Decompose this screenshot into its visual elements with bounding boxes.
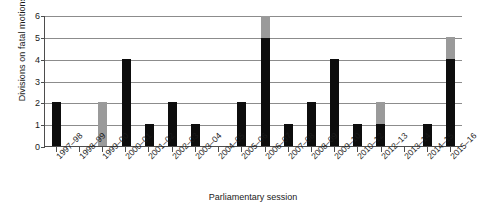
bar-segment-grey xyxy=(261,16,270,38)
bar-stack xyxy=(400,16,409,146)
bar-group xyxy=(184,16,207,146)
bar-stack xyxy=(376,16,385,146)
y-tick-label: 1 xyxy=(35,120,40,130)
y-tick-label: 5 xyxy=(35,33,40,43)
x-label-cell: 1997–98 xyxy=(44,152,67,192)
x-axis-tick-labels: 1997–981998–991999–002000–012001–022002–… xyxy=(44,152,462,192)
bar-segment-grey xyxy=(376,102,385,124)
bar-stack xyxy=(307,16,316,146)
x-label-cell: 2003–04 xyxy=(183,152,206,192)
x-label-cell: 2005–06 xyxy=(230,152,253,192)
bar-group xyxy=(254,16,277,146)
bar-stack xyxy=(214,16,223,146)
bar-stack xyxy=(145,16,154,146)
x-label-cell: 2004–05 xyxy=(207,152,230,192)
bar-stack xyxy=(330,16,339,146)
bar-stack xyxy=(191,16,200,146)
bar-group xyxy=(346,16,369,146)
bar-stack xyxy=(284,16,293,146)
x-axis-title: Parliamentary session xyxy=(44,192,462,202)
x-label-cell: 2012–13 xyxy=(369,152,392,192)
bar-segment-grey xyxy=(446,37,455,59)
bar-group xyxy=(138,16,161,146)
bar-group xyxy=(207,16,230,146)
bar-group xyxy=(68,16,91,146)
bar-group xyxy=(230,16,253,146)
x-label-cell: 2000–01 xyxy=(114,152,137,192)
x-label-cell: 2008–09 xyxy=(299,152,322,192)
bar-group xyxy=(416,16,439,146)
bar-stack xyxy=(353,16,362,146)
x-label-cell: 2015–16 xyxy=(439,152,462,192)
x-label-cell: 2010–12 xyxy=(346,152,369,192)
bar-stack xyxy=(75,16,84,146)
x-label-cell: 2007–08 xyxy=(276,152,299,192)
bar-group xyxy=(393,16,416,146)
x-label-cell: 1999–00 xyxy=(90,152,113,192)
bar-group xyxy=(300,16,323,146)
bar-series xyxy=(45,16,462,146)
bar-group xyxy=(277,16,300,146)
x-label-cell: 2013–14 xyxy=(392,152,415,192)
bar-segment-black xyxy=(52,102,61,146)
x-label-cell: 1998–99 xyxy=(67,152,90,192)
plot-area: 0123456 xyxy=(44,16,462,147)
y-tick-label: 0 xyxy=(35,142,40,152)
y-tick-label: 2 xyxy=(35,98,40,108)
bar-stack xyxy=(52,16,61,146)
bar-stack xyxy=(446,16,455,146)
bar-group xyxy=(115,16,138,146)
x-label-cell: 2014–15 xyxy=(416,152,439,192)
bar-group xyxy=(439,16,462,146)
bar-group xyxy=(91,16,114,146)
bar-stack xyxy=(423,16,432,146)
y-axis-title: Divisions on fatal motions xyxy=(17,0,27,109)
bar-stack xyxy=(98,16,107,146)
y-tick-label: 4 xyxy=(35,55,40,65)
x-label-cell: 2009–10 xyxy=(323,152,346,192)
y-tick-label: 3 xyxy=(35,77,40,87)
x-label-cell: 2006–07 xyxy=(253,152,276,192)
x-label-cell: 2002–03 xyxy=(160,152,183,192)
bar-stack xyxy=(261,16,270,146)
y-tick-label: 6 xyxy=(35,11,40,21)
bar-group xyxy=(323,16,346,146)
bar-stack xyxy=(122,16,131,146)
chart-container: Divisions on fatal motions 0123456 1997–… xyxy=(0,0,479,212)
x-label-cell: 2001–02 xyxy=(137,152,160,192)
bar-group xyxy=(161,16,184,146)
bar-stack xyxy=(168,16,177,146)
bar-stack xyxy=(237,16,246,146)
bar-group xyxy=(369,16,392,146)
bar-group xyxy=(45,16,68,146)
